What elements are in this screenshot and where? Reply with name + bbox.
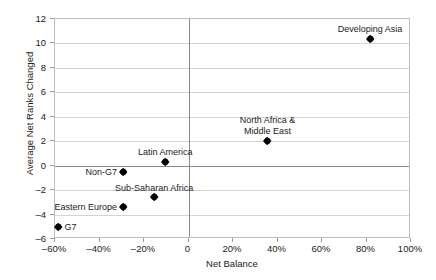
y-tick-mark: [50, 165, 54, 166]
gridline-horizontal: [55, 68, 409, 69]
gridline-horizontal: [55, 92, 409, 93]
gridline-horizontal: [55, 190, 409, 191]
y-tick-mark: [50, 42, 54, 43]
y-tick-mark: [50, 140, 54, 141]
y-tick-label: 2: [0, 135, 46, 146]
x-tick-mark: [410, 238, 411, 242]
y-tick-mark: [50, 214, 54, 215]
data-point-label: Non-G7: [85, 167, 117, 178]
y-tick-mark: [50, 91, 54, 92]
data-point-label: North Africa &Middle East: [240, 115, 296, 136]
gridline-horizontal: [55, 43, 409, 44]
y-tick-label: 8: [0, 61, 46, 72]
x-tick-mark: [277, 238, 278, 242]
data-point-label: Latin America: [138, 147, 193, 158]
data-point-label: Sub-Saharan Africa: [115, 182, 193, 193]
x-tick-label: 100%: [380, 243, 436, 254]
y-tick-label: –4: [0, 208, 46, 219]
data-point-label: Developing Asia: [338, 23, 403, 34]
y-tick-label: 0: [0, 159, 46, 170]
x-tick-mark: [232, 238, 233, 242]
gridline-horizontal: [55, 117, 409, 118]
gridline-horizontal: [55, 141, 409, 142]
x-tick-mark: [54, 238, 55, 242]
y-tick-label: 4: [0, 110, 46, 121]
y-tick-label: –2: [0, 184, 46, 195]
zero-line-vertical: [189, 19, 190, 237]
x-axis-title: Net Balance: [54, 258, 410, 269]
y-tick-mark: [50, 67, 54, 68]
y-tick-label: 6: [0, 86, 46, 97]
y-tick-label: 10: [0, 37, 46, 48]
y-tick-mark: [50, 116, 54, 117]
data-point-label: G7: [64, 222, 76, 233]
x-tick-mark: [321, 238, 322, 242]
x-tick-mark: [99, 238, 100, 242]
data-point-label: Eastern Europe: [54, 202, 117, 213]
x-tick-mark: [143, 238, 144, 242]
y-tick-label: 12: [0, 13, 46, 24]
x-tick-mark: [188, 238, 189, 242]
y-tick-mark: [50, 18, 54, 19]
y-tick-mark: [50, 189, 54, 190]
scatter-chart: Average Net Ranks Changed Net Balance –6…: [0, 0, 436, 280]
y-tick-label: –6: [0, 233, 46, 244]
gridline-horizontal: [55, 215, 409, 216]
x-tick-mark: [366, 238, 367, 242]
